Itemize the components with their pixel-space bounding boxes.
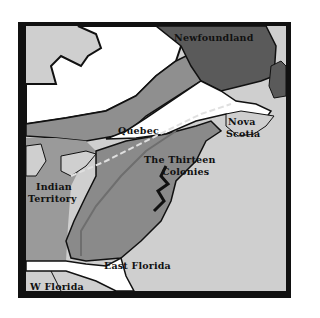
label-indian: Indian bbox=[36, 182, 72, 192]
label-scotia: Scotia bbox=[226, 129, 260, 139]
label-nova: Nova bbox=[228, 117, 256, 127]
label-newfoundland: Newfoundland bbox=[174, 33, 254, 43]
label-the-thirteen: The Thirteen bbox=[144, 155, 216, 165]
label-w-florida: W Florida bbox=[30, 282, 84, 291]
label-quebec: Quebec bbox=[118, 126, 159, 136]
label-east-florida: East Florida bbox=[104, 261, 171, 271]
colonial-map: Newfoundland Quebec Nova Scotia The Thir… bbox=[26, 26, 286, 291]
label-territory: Territory bbox=[28, 194, 77, 204]
label-colonies: Colonies bbox=[162, 167, 209, 177]
